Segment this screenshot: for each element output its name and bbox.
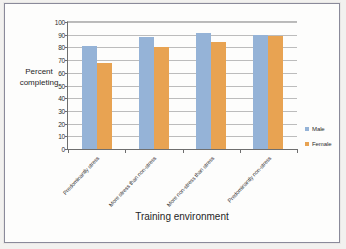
bar-groups — [68, 22, 297, 149]
y-axis-tick-label: 0 — [62, 146, 65, 153]
legend-item-female[interactable]: Female — [305, 141, 331, 147]
bar-male — [82, 46, 97, 149]
bar-group — [240, 22, 297, 149]
x-axis-tick-mark — [297, 149, 298, 153]
y-axis-tick-label: 50 — [58, 82, 65, 89]
y-axis-tick-label: 60 — [58, 69, 65, 76]
bar-group — [125, 22, 182, 149]
x-axis-category-labels: Predominantly stressMore stress than non… — [67, 152, 297, 208]
bar-male — [196, 33, 211, 149]
legend-label: Male — [312, 126, 325, 132]
bar-chart: Percent completing 100908070605040302010… — [5, 4, 339, 242]
chart-frame: Percent completing 100908070605040302010… — [4, 3, 340, 243]
bar-male — [253, 35, 268, 149]
y-axis-tick-label: 70 — [58, 57, 65, 64]
y-axis-title-line1: Percent — [14, 66, 64, 77]
y-axis-tick-label: 100 — [55, 19, 65, 26]
legend-swatch-icon — [305, 142, 309, 146]
chart-legend: MaleFemale — [305, 126, 331, 156]
bar-group — [183, 22, 240, 149]
bar-male — [139, 37, 154, 149]
y-axis-tick-label: 20 — [58, 120, 65, 127]
x-axis-label-slot: Predominantly non-stress — [240, 152, 298, 208]
legend-label: Female — [312, 141, 331, 147]
bar-female — [97, 63, 112, 149]
y-axis-tick-label: 30 — [58, 107, 65, 114]
x-axis-category-label: Predominantly stress — [61, 155, 100, 196]
bar-female — [154, 47, 169, 149]
legend-swatch-icon — [305, 127, 309, 131]
y-axis-title: Percent completing — [14, 66, 64, 88]
x-axis-title: Training environment — [67, 211, 297, 222]
y-axis-title-line2: completing — [14, 77, 64, 88]
y-axis-tick-label: 40 — [58, 95, 65, 102]
bar-group — [68, 22, 125, 149]
y-axis-tick-label: 10 — [58, 133, 65, 140]
y-axis-tick-label: 90 — [58, 31, 65, 38]
legend-item-male[interactable]: Male — [305, 126, 331, 132]
y-axis-tick-label: 80 — [58, 44, 65, 51]
bar-female — [211, 42, 226, 149]
plot-area: 1009080706050403020100 — [67, 21, 297, 149]
bar-female — [268, 36, 283, 149]
